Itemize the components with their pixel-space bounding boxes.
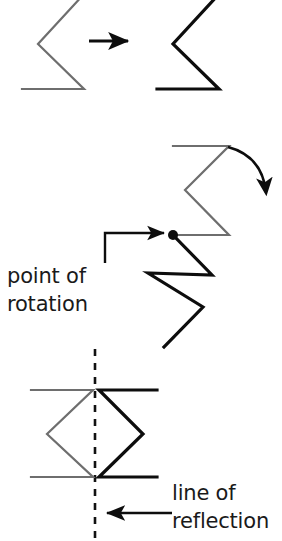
rotation-point-dot: [168, 230, 178, 240]
figure-canvas: point of rotation line of reflection: [0, 0, 282, 541]
transformations-figure: point of rotation line of reflection: [0, 0, 282, 541]
point-of-rotation-label-line1: point of: [7, 264, 87, 288]
line-of-reflection-label-line2: reflection: [172, 509, 269, 533]
line-of-reflection-label-line1: line of: [172, 481, 236, 505]
point-of-rotation-label-line2: rotation: [7, 292, 88, 316]
